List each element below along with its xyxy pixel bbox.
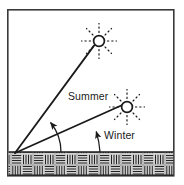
winter-label: Winter — [104, 129, 135, 141]
summer-sun-disc — [94, 36, 105, 47]
summer-sun-icon — [81, 23, 117, 59]
ground-hatch-band — [9, 152, 174, 175]
winter-angle-arc — [96, 132, 100, 153]
sun-angle-figure: Summer Winter — [0, 0, 184, 185]
ground-surface — [9, 152, 174, 175]
diagram-labels: Summer Winter — [66, 90, 140, 142]
winter-sun-disc — [122, 102, 133, 113]
diagram-canvas: Summer Winter — [0, 0, 184, 185]
winter-sun-icon — [109, 89, 145, 125]
summer-label: Summer — [68, 90, 109, 102]
